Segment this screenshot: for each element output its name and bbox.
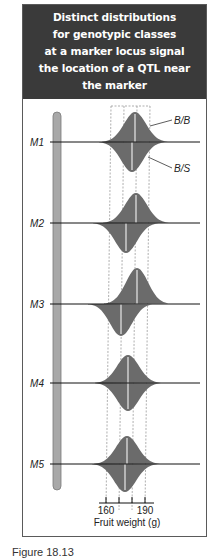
marker-label-m4: M4 xyxy=(30,378,44,389)
legend-label-bb: B/B xyxy=(174,115,190,126)
marker-label-m5: M5 xyxy=(30,459,44,470)
marker-label-m3: M3 xyxy=(30,299,44,310)
legend-label-bs: B/S xyxy=(174,163,190,174)
marker-label-m2: M2 xyxy=(30,218,44,229)
figure-caption: Figure 18.13 xyxy=(12,546,74,558)
legend-leader-bs xyxy=(148,157,172,168)
marker-label-m1: M1 xyxy=(30,137,44,148)
chromosome-bar xyxy=(53,112,61,490)
x-tick-label-160: 160 xyxy=(98,505,115,516)
dashed-guide-line xyxy=(145,106,150,510)
x-axis-label: Fruit weight (g) xyxy=(94,517,161,528)
x-tick-label-190: 190 xyxy=(137,505,154,516)
legend-leader-bb xyxy=(150,120,172,126)
